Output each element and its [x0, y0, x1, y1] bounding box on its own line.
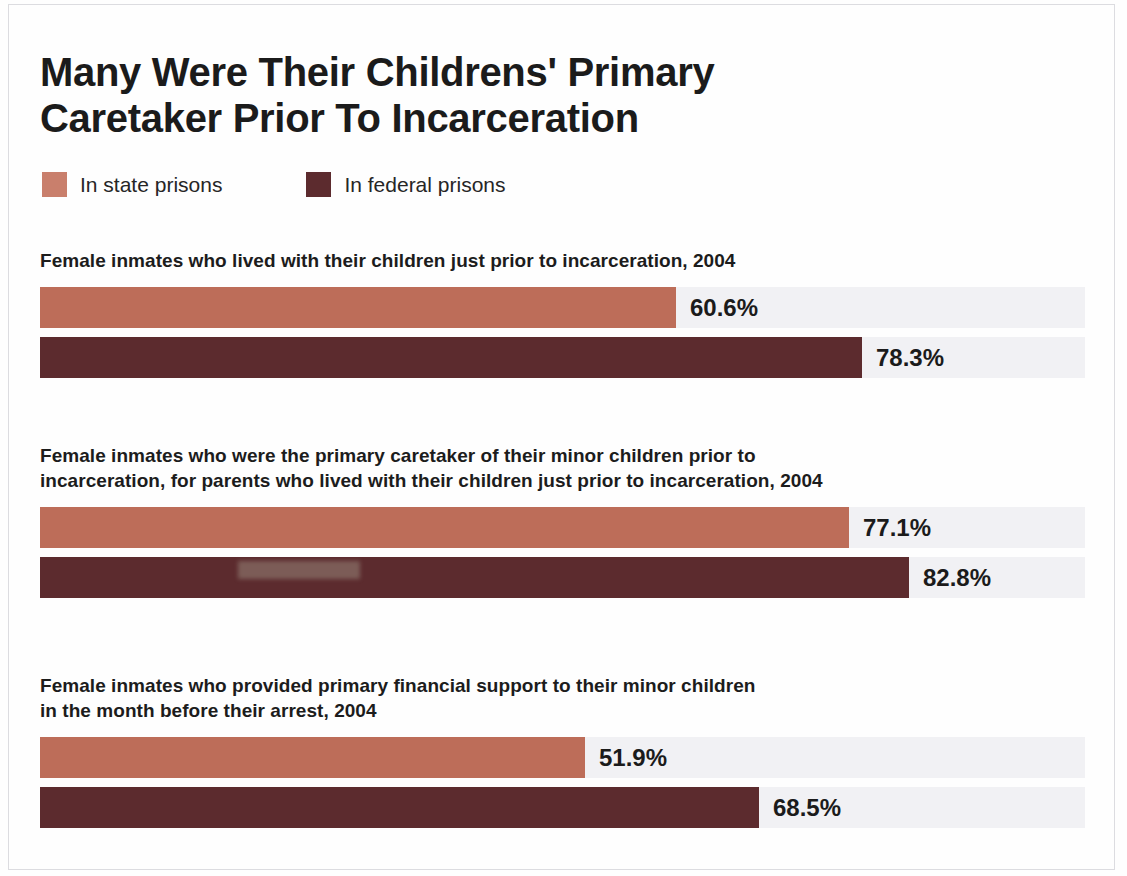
bar-value-label: 60.6%	[690, 287, 758, 328]
bar-row: 68.5%	[40, 787, 1087, 828]
bar-fill-federal[interactable]	[40, 337, 862, 378]
bar-group-bars: 60.6% 78.3%	[40, 287, 1087, 378]
legend-item-label: In state prisons	[80, 173, 222, 197]
bar-group-label: Female inmates who provided primary fina…	[40, 673, 1040, 723]
bar-fill-state[interactable]	[40, 287, 676, 328]
scan-artifact	[238, 561, 360, 579]
bar-fill-state[interactable]	[40, 737, 585, 778]
legend-item-state[interactable]: In state prisons	[42, 172, 222, 197]
bar-row: 51.9%	[40, 737, 1087, 778]
bar-row: 82.8%	[40, 557, 1087, 598]
bar-value-label: 78.3%	[876, 337, 944, 378]
bar-value-label: 77.1%	[863, 507, 931, 548]
bar-value-label: 68.5%	[773, 787, 841, 828]
legend-item-federal[interactable]: In federal prisons	[306, 172, 505, 197]
bar-fill-federal[interactable]	[40, 557, 909, 598]
chart-title: Many Were Their Childrens' Primary Caret…	[40, 49, 900, 141]
chart-title-line-1: Many Were Their Childrens' Primary	[40, 49, 900, 95]
bar-row: 60.6%	[40, 287, 1087, 328]
chart-legend: In state prisons In federal prisons	[42, 172, 506, 197]
bar-group-3: Female inmates who provided primary fina…	[40, 673, 1087, 828]
chart-figure: Many Were Their Childrens' Primary Caret…	[0, 0, 1127, 876]
bar-group-label-line-1: Female inmates who were the primary care…	[40, 443, 1040, 468]
legend-swatch-icon	[306, 172, 331, 197]
bar-row: 78.3%	[40, 337, 1087, 378]
bar-group-label-line-1: Female inmates who lived with their chil…	[40, 248, 1040, 273]
chart-title-line-2: Caretaker Prior To Incarceration	[40, 95, 900, 141]
bar-group-label-line-1: Female inmates who provided primary fina…	[40, 673, 1040, 698]
bar-row: 77.1%	[40, 507, 1087, 548]
bar-group-label-line-2: incarceration, for parents who lived wit…	[40, 468, 1040, 493]
bar-fill-state[interactable]	[40, 507, 849, 548]
page-frame-left	[8, 4, 9, 870]
bar-group-label: Female inmates who lived with their chil…	[40, 248, 1040, 273]
bar-group-1: Female inmates who lived with their chil…	[40, 248, 1087, 378]
page-frame-right	[1114, 4, 1115, 870]
legend-item-label: In federal prisons	[344, 173, 505, 197]
bar-group-2: Female inmates who were the primary care…	[40, 443, 1087, 598]
bar-group-label-line-2: in the month before their arrest, 2004	[40, 698, 1040, 723]
bar-group-bars: 77.1% 82.8%	[40, 507, 1087, 598]
bar-value-label: 51.9%	[599, 737, 667, 778]
bar-group-bars: 51.9% 68.5%	[40, 737, 1087, 828]
bar-fill-federal[interactable]	[40, 787, 759, 828]
bar-value-label: 82.8%	[923, 557, 991, 598]
legend-swatch-icon	[42, 172, 67, 197]
bar-group-label: Female inmates who were the primary care…	[40, 443, 1040, 493]
